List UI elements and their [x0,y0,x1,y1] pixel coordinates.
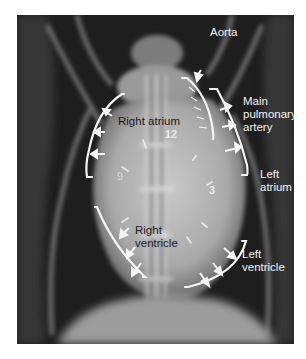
clock-numeral-12: 12 [165,128,177,140]
label-left-ventricle-line1: Left [242,248,261,261]
label-main-pulmonary-artery-line3: artery [243,121,272,134]
label-left-ventricle-line2: ventricle [242,261,285,274]
label-right-ventricle-line2: ventricle [135,237,178,250]
label-left-atrium-line1: Left [260,168,279,181]
clock-numeral-3: 3 [209,184,215,196]
label-main-pulmonary-artery-line1: Main [243,95,268,108]
radiograph-figure: Aorta Main pulmonary artery Right atrium… [17,15,294,344]
label-left-atrium-line2: atrium [260,181,292,194]
label-right-atrium: Right atrium [118,115,180,128]
label-main-pulmonary-artery-line2: pulmonary [243,108,294,121]
label-aorta: Aorta [210,26,238,39]
clock-numeral-6: 6 [161,228,167,240]
label-right-ventricle-line1: Right [135,224,162,237]
radiograph-image [17,15,294,344]
clock-numeral-9: 9 [117,170,123,182]
